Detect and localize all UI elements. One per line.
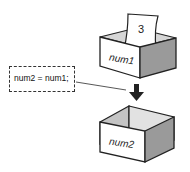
down-arrow-icon xyxy=(129,84,144,101)
box-num2 xyxy=(100,106,174,162)
connector-line xyxy=(76,82,126,90)
code-statement-box: num2 = num1; xyxy=(9,66,75,92)
code-statement-text: num2 = num1; xyxy=(14,73,69,83)
paper-value-text: 3 xyxy=(138,23,144,35)
